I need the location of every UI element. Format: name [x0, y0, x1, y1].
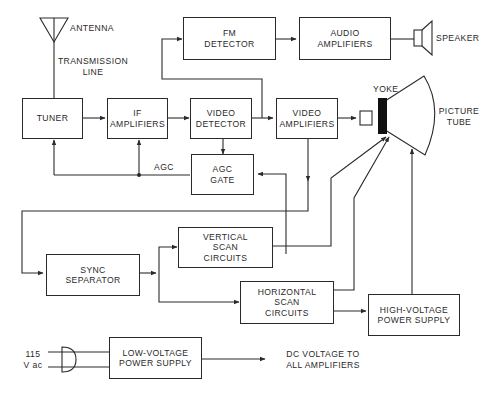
yoke-label: YOKE [373, 84, 398, 95]
agc-gate-block: AGC GATE [191, 154, 254, 195]
low-voltage-power-supply-block: LOW-VOLTAGE POWER SUPPLY [109, 337, 202, 379]
audio-amplifiers-block: AUDIO AMPLIFIERS [299, 17, 391, 60]
picture-tube-label: PICTURE TUBE [434, 106, 484, 127]
tuner-block: TUNER [22, 98, 83, 139]
horizontal-scan-block: HORIZONTAL SCAN CIRCUITS [240, 281, 334, 324]
video-detector-block: VIDEO DETECTOR [190, 98, 252, 139]
antenna-label: ANTENNA [70, 23, 114, 34]
speaker-label: SPEAKER [436, 33, 479, 44]
if-amplifiers-block: IF AMPLIFIERS [107, 98, 168, 139]
ac-input-label: 115 V ac [19, 349, 47, 370]
agc-label: AGC [154, 162, 174, 173]
dc-output-label: DC VOLTAGE TO ALL AMPLIFIERS [268, 349, 378, 370]
vertical-scan-block: VERTICAL SCAN CIRCUITS [178, 227, 273, 268]
fm-detector-block: FM DETECTOR [183, 17, 276, 60]
video-amplifiers-block: VIDEO AMPLIFIERS [276, 98, 338, 139]
plug-icon [62, 347, 76, 372]
high-voltage-power-supply-block: HIGH-VOLTAGE POWER SUPPLY [368, 294, 460, 336]
speaker-icon [414, 21, 432, 55]
yoke-icon [378, 98, 387, 134]
transmission-line-label: TRANSMISSION LINE [57, 56, 129, 77]
tv-receiver-block-diagram: TUNER IF AMPLIFIERS VIDEO DETECTOR VIDEO… [0, 0, 492, 399]
sync-separator-block: SYNC SEPARATOR [46, 254, 140, 296]
